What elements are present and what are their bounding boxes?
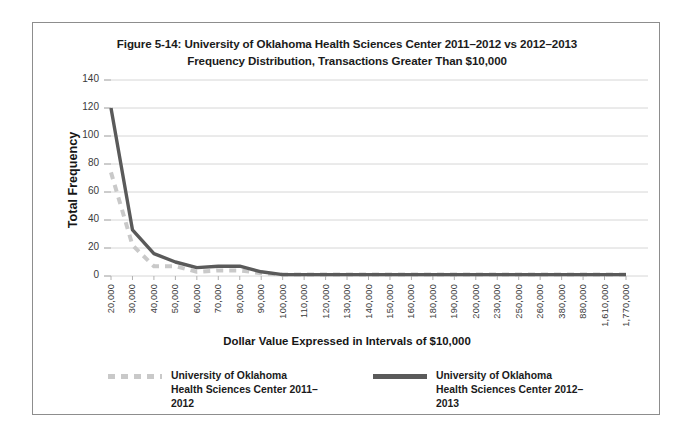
x-axis-tick-label: 380,000: [557, 284, 567, 319]
x-axis-tick-label: 80,000: [235, 284, 245, 313]
x-axis-tick-label: 120,000: [321, 284, 331, 319]
x-axis-tick-label: 140,000: [364, 284, 374, 319]
x-axis-tick-label: 190,000: [449, 284, 459, 319]
x-axis-tick-label: 880,000: [578, 284, 588, 319]
x-axis-tick-label: 40,000: [149, 284, 159, 313]
x-axis-tick-label: 180,000: [428, 284, 438, 319]
x-axis-tick-label: 70,000: [213, 284, 223, 313]
x-axis-tick-label: 60,000: [192, 284, 202, 313]
figure-frame: Figure 5-14: University of Oklahoma Heal…: [32, 22, 660, 415]
y-axis-tick-label: 120: [65, 101, 99, 112]
x-axis-tick-label: 160,000: [406, 284, 416, 319]
x-axis-tick-label: 1,770,000: [621, 284, 631, 327]
x-axis-tick-label: 50,000: [170, 284, 180, 313]
y-axis-tick-label: 140: [65, 73, 99, 84]
x-axis-tick-label: 1,610,000: [600, 284, 610, 327]
x-axis-tick-label: 30,000: [127, 284, 137, 313]
series-line-2: [111, 108, 626, 275]
y-axis-tick-label: 20: [65, 241, 99, 252]
x-axis-tick-label: 130,000: [342, 284, 352, 319]
y-axis-tick-label: 80: [65, 157, 99, 168]
x-axis-tick-label: 250,000: [514, 284, 524, 319]
x-axis-tick-label: 200,000: [471, 284, 481, 319]
series-line-1: [111, 172, 626, 274]
x-axis-tick-label: 230,000: [492, 284, 502, 319]
chart-legend: University of Oklahoma Health Sciences C…: [33, 369, 661, 411]
x-axis-title: Dollar Value Expressed in Intervals of $…: [33, 335, 661, 347]
x-axis-tick-label: 20,000: [106, 284, 116, 313]
plot-area: Total Frequency Dollar Value Expressed i…: [33, 23, 661, 416]
x-axis-tick-label: 260,000: [535, 284, 545, 319]
y-axis-tick-label: 60: [65, 185, 99, 196]
chart-canvas: [33, 23, 661, 416]
legend-solid-line-icon: [373, 374, 427, 379]
x-axis-tick-label: 150,000: [385, 284, 395, 319]
legend-item-2012-2013: University of Oklahoma Health Sciences C…: [373, 369, 586, 411]
legend-dashed-line-icon: [108, 374, 162, 379]
legend-item-label: University of Oklahoma Health Sciences C…: [171, 369, 321, 411]
legend-item-2011-2012: University of Oklahoma Health Sciences C…: [108, 369, 321, 411]
y-axis-tick-label: 100: [65, 129, 99, 140]
legend-item-label: University of Oklahoma Health Sciences C…: [436, 369, 586, 411]
x-axis-tick-label: 100,000: [278, 284, 288, 319]
x-axis-tick-label: 110,000: [299, 284, 309, 318]
y-axis-tick-label: 0: [65, 269, 99, 280]
x-axis-tick-label: 90,000: [256, 284, 266, 313]
y-axis-tick-label: 40: [65, 213, 99, 224]
